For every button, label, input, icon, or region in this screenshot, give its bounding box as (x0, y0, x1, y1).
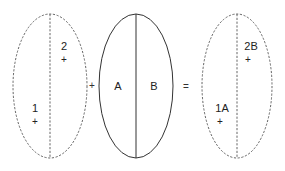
middle-region: A B (99, 14, 173, 158)
right-label-1a: 1A (215, 102, 229, 114)
equals-operator: = (183, 81, 189, 92)
right-marker-1a: + (217, 116, 223, 127)
right-marker-2b: + (245, 54, 251, 65)
left-region: 2 + 1 + (13, 14, 87, 158)
plus-operator: + (89, 80, 95, 91)
left-marker-2: + (61, 54, 67, 65)
diagram-canvas: 2 + 1 + + A B = 2B + 1A + (0, 0, 285, 171)
left-label-1: 1 (32, 102, 38, 114)
right-region: 2B + 1A + (202, 14, 272, 158)
left-label-2: 2 (61, 40, 67, 52)
left-marker-1: + (32, 116, 38, 127)
middle-label-b: B (150, 80, 157, 92)
right-label-2b: 2B (244, 40, 257, 52)
middle-label-a: A (114, 80, 122, 92)
